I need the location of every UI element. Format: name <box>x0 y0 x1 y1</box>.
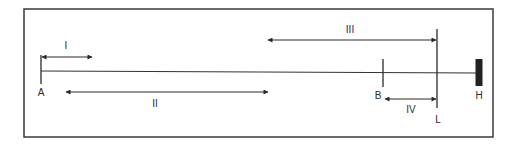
point-h: H <box>475 59 482 101</box>
segment-label-iv: IV <box>406 104 416 115</box>
endpoint-block-h <box>476 59 483 86</box>
arrows-layer: IIIIIIIV <box>42 24 436 115</box>
segment-label-i: I <box>65 40 68 51</box>
point-a: A <box>38 55 45 98</box>
point-label-h: H <box>475 90 482 101</box>
points-layer: ABLH <box>38 29 483 125</box>
arrow-iii: III <box>268 24 436 40</box>
main-line <box>41 71 479 73</box>
point-b: B <box>375 59 383 101</box>
point-label-l: L <box>435 114 441 125</box>
point-l: L <box>435 29 441 125</box>
arrow-i: I <box>42 40 92 57</box>
segment-label-iii: III <box>346 24 354 35</box>
arrow-ii: II <box>66 92 268 109</box>
distance-diagram: ABLH IIIIIIIV <box>0 0 509 145</box>
arrow-iv: IV <box>385 99 436 115</box>
segment-label-ii: II <box>152 98 158 109</box>
point-label-b: B <box>375 90 382 101</box>
point-label-a: A <box>38 87 45 98</box>
